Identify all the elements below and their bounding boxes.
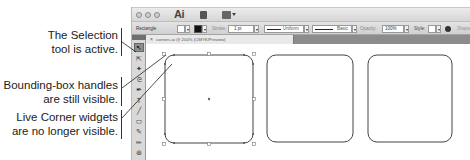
leader-line-live-corner: [122, 64, 172, 118]
leader-line-bounding-box: [122, 55, 166, 88]
leader-line-selection-tool: [122, 42, 136, 52]
leader-lines: [0, 0, 470, 160]
